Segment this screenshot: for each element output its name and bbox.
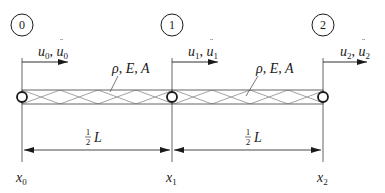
coordinate-labels: x0 x1 x2 — [15, 170, 328, 187]
node-0-displacement-label: u0, u0 — [38, 44, 69, 61]
node-0-accel-dots: ¨ — [60, 36, 63, 46]
element-2-length-label: 1 2 L — [245, 127, 262, 147]
node-2-accel-dots: ¨ — [362, 36, 365, 46]
node-2-circle — [318, 92, 328, 102]
node-0-circle — [17, 92, 27, 102]
node-1-number: 1 — [169, 18, 175, 32]
node-0-number: 0 — [19, 18, 25, 32]
node-number-labels: 0 1 2 — [11, 14, 334, 36]
dimensions: 1 2 L 1 2 L — [24, 127, 321, 150]
svg-text:1: 1 — [246, 127, 251, 137]
bar-element-diagram: 0 1 2 u0, u0 ¨ u1, u1 ¨ u2, u2 ¨ ρ, E, A… — [0, 0, 385, 193]
coord-x1: x1 — [165, 170, 177, 187]
coord-x0: x0 — [15, 170, 27, 187]
svg-text:2: 2 — [86, 137, 91, 147]
element-2-bar — [172, 90, 323, 104]
svg-text:L: L — [253, 130, 262, 145]
node-1-displacement-label: u1, u1 — [188, 44, 218, 61]
svg-text:1: 1 — [86, 127, 91, 137]
svg-text:2: 2 — [246, 137, 251, 147]
node-2-number: 2 — [320, 18, 326, 32]
element-1-properties: ρ, E, A — [111, 61, 150, 76]
coord-x2: x2 — [316, 170, 328, 187]
node-1-accel-dots: ¨ — [210, 36, 213, 46]
element-1-length-label: 1 2 L — [85, 127, 102, 147]
node-1-circle — [167, 92, 177, 102]
svg-text:L: L — [93, 130, 102, 145]
element-2-properties: ρ, E, A — [255, 61, 294, 76]
element-1-bar — [22, 90, 172, 104]
displacement-vectors: u0, u0 ¨ u1, u1 ¨ u2, u2 ¨ — [22, 36, 370, 62]
node-2-displacement-label: u2, u2 — [340, 44, 370, 61]
